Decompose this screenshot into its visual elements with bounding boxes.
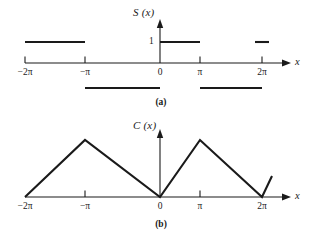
panel-a-tick-2pi: 2π bbox=[250, 67, 274, 77]
panel-b-tick-2pi: 2π bbox=[250, 201, 274, 211]
panel-a-x-axis-label: x bbox=[295, 56, 300, 67]
panel-a: S (x) x 1 −2π −π 0 π 2π (a) bbox=[0, 0, 318, 118]
panel-a-tick-minus-2pi: −2π bbox=[11, 67, 39, 77]
panel-a-caption: (a) bbox=[141, 97, 181, 107]
panel-b-tick-minus-2pi: −2π bbox=[11, 201, 39, 211]
panel-b-tick-pi: π bbox=[190, 201, 210, 211]
panel-b-axis-title: C (x) bbox=[133, 119, 156, 131]
x-axis-a bbox=[25, 60, 291, 67]
y-axis-b bbox=[157, 129, 163, 197]
figure-container: S (x) x 1 −2π −π 0 π 2π (a) bbox=[0, 0, 318, 241]
panel-a-tick-pi: π bbox=[190, 67, 210, 77]
x-ticks-a bbox=[25, 57, 262, 64]
panel-a-y-tick-label: 1 bbox=[149, 36, 154, 46]
panel-b: C (x) x −2π −π 0 π 2π (b) bbox=[0, 118, 318, 241]
square-wave-segments bbox=[25, 42, 269, 88]
panel-b-x-axis-label: x bbox=[295, 190, 300, 201]
panel-a-tick-zero: 0 bbox=[148, 67, 172, 77]
x-ticks-b bbox=[85, 191, 200, 198]
panel-b-tick-zero: 0 bbox=[148, 201, 172, 211]
panel-a-tick-minus-pi: −π bbox=[72, 67, 98, 77]
panel-b-caption: (b) bbox=[141, 219, 181, 229]
panel-a-axis-title: S (x) bbox=[133, 6, 154, 18]
triangle-wave-path bbox=[25, 140, 272, 197]
panel-b-tick-minus-pi: −π bbox=[72, 201, 98, 211]
